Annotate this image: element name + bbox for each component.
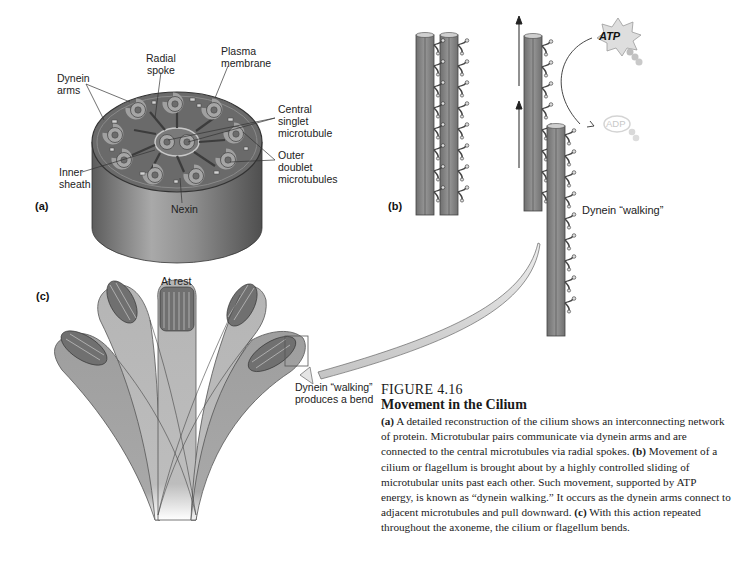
microtubule-pair-left: [416, 33, 469, 216]
adp-label: ADP: [606, 118, 626, 129]
label-central-singlet: Central singlet microtubule: [278, 103, 332, 139]
caption-body: (a) A detailed reconstruction of the cil…: [381, 414, 731, 536]
atp-label: ATP: [599, 30, 620, 42]
curved-arrow-b-to-c: [300, 243, 540, 384]
label-at-rest: At rest: [161, 275, 191, 287]
caption-tag-a: (a): [381, 415, 394, 427]
caption-tag-c: (c): [574, 506, 586, 518]
panel-c-tag: (c): [36, 290, 49, 302]
caption-tag-b: (b): [632, 445, 646, 457]
sliding-arrows: [516, 16, 522, 168]
label-dynein-walking: Dynein “walking”: [582, 204, 663, 216]
atp-adp-arc: [561, 38, 594, 127]
cilium-fan: [55, 276, 308, 520]
label-nexin: Nexin: [171, 203, 198, 215]
figure-title: Movement in the Cilium: [381, 397, 731, 413]
panel-a-tag: (a): [35, 200, 48, 212]
label-bend: Dynein “walking” produces a bend: [295, 381, 373, 405]
figure-number: FIGURE 4.16: [381, 382, 731, 397]
microtubule-lower: [547, 124, 576, 337]
figure-caption: FIGURE 4.16 Movement in the Cilium (a) A…: [381, 382, 731, 536]
panel-b-tag: (b): [388, 200, 402, 212]
label-dynein-arms: Dynein arms: [57, 72, 90, 96]
label-outer-doublet: Outer doublet microtubules: [278, 149, 338, 185]
label-plasma-membrane: Plasma membrane: [221, 45, 271, 69]
axoneme-cylinder: [92, 92, 262, 263]
label-radial-spoke: Radial spoke: [146, 52, 176, 76]
label-inner-sheath: Inner sheath: [59, 166, 91, 190]
